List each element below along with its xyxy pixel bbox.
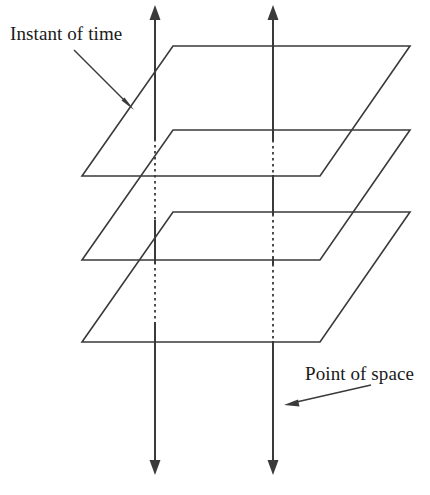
world-line-left-up-arrow-icon xyxy=(150,5,161,20)
instant-of-time-leader-line xyxy=(74,50,129,105)
plane-middle xyxy=(82,130,410,260)
point-of-space-annotation: Point of space xyxy=(284,363,414,407)
figure-canvas: Instant of time Point of space xyxy=(0,0,430,495)
world-line-right-up-arrow-icon xyxy=(268,5,279,20)
point-of-space-arrow-icon xyxy=(284,400,300,407)
world-line-front-overlays xyxy=(155,342,273,466)
point-of-space-leader-line xyxy=(292,385,371,403)
point-of-space-label: Point of space xyxy=(305,363,414,384)
instant-of-time-annotation: Instant of time xyxy=(10,23,134,110)
plane-bottom-outline xyxy=(82,212,410,342)
instant-of-time-label: Instant of time xyxy=(10,23,122,44)
plane-bottom xyxy=(82,212,410,342)
plane-middle-outline xyxy=(82,130,410,260)
plane-top-outline xyxy=(82,46,410,176)
spacetime-planes-diagram: Instant of time Point of space xyxy=(0,0,430,495)
plane-top xyxy=(82,46,410,176)
